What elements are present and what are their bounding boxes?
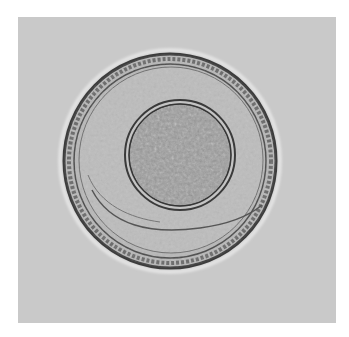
- egg-illustration: [0, 0, 349, 337]
- inner-embryo: [125, 100, 235, 210]
